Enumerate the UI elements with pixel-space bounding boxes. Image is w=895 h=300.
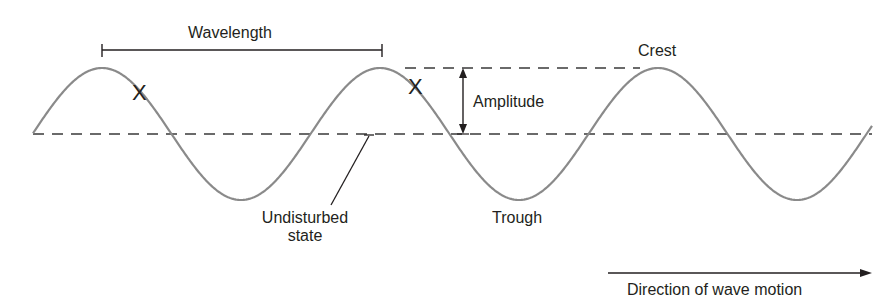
undisturbed-label-line2: state (260, 227, 350, 245)
trough-label: Trough (492, 209, 542, 227)
undisturbed-pointer-line (331, 136, 369, 205)
undisturbed-label-line1: Undisturbed (260, 209, 350, 227)
crest-label: Crest (638, 42, 676, 60)
undisturbed-label: Undisturbed state (260, 209, 350, 245)
wave-diagram-graphic (0, 0, 895, 300)
wavelength-bracket (102, 44, 382, 57)
wave-diagram: Wavelength Crest Amplitude Undisturbed s… (0, 0, 895, 300)
x-marker-second: X (408, 76, 423, 98)
amplitude-arrow (457, 68, 469, 134)
direction-label: Direction of wave motion (627, 281, 802, 299)
direction-arrow (608, 269, 872, 277)
amplitude-label: Amplitude (473, 93, 544, 111)
x-marker-first: X (132, 82, 147, 104)
wavelength-label: Wavelength (188, 24, 272, 42)
